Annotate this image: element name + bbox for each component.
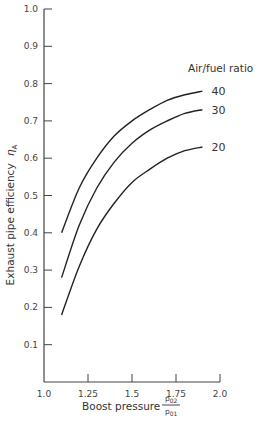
series-label-30: 30: [211, 104, 225, 117]
y-tick-label: 0.1: [24, 340, 38, 350]
series-curves: [62, 91, 203, 315]
y-ticks: 0.10.20.30.40.50.60.70.80.91.0: [24, 4, 52, 350]
legend-title: Air/fuel ratio: [188, 62, 253, 74]
y-tick-label: 0.8: [24, 79, 39, 89]
y-tick-label: 1.0: [24, 4, 39, 14]
y-axis-title: Exhaust pipe efficiency ηA: [4, 144, 19, 285]
x-tick-label: 1.25: [78, 389, 98, 399]
x-tick-label: 1.5: [125, 389, 139, 399]
curve-afr-20: [62, 147, 203, 315]
efficiency-chart: 0.10.20.30.40.50.60.70.80.91.0 1.01.251.…: [0, 0, 261, 423]
series-labels: 403020: [211, 85, 225, 154]
y-tick-label: 0.2: [24, 302, 38, 312]
x-axis-fraction: p02 p01: [162, 394, 180, 417]
svg-text:Exhaust pipe efficiency: Exhaust pipe efficiency ηA: [4, 144, 19, 285]
series-label-40: 40: [211, 85, 225, 98]
y-tick-label: 0.6: [24, 153, 39, 163]
svg-text:p01: p01: [165, 407, 178, 417]
x-tick-label: 2.0: [213, 389, 228, 399]
y-axis-symbol-sub: A: [11, 144, 19, 149]
y-tick-label: 0.3: [24, 265, 38, 275]
curve-afr-40: [62, 91, 203, 233]
y-tick-label: 0.7: [24, 116, 38, 126]
x-tick-label: 1.0: [37, 389, 52, 399]
y-axis-title-text: Exhaust pipe efficiency: [4, 163, 16, 285]
y-tick-label: 0.9: [24, 41, 39, 51]
curve-afr-30: [62, 110, 203, 278]
frac-numerator-sub: 02: [170, 397, 178, 404]
y-tick-label: 0.5: [24, 191, 38, 201]
frac-denominator-sub: 01: [170, 410, 178, 417]
y-tick-label: 0.4: [24, 228, 39, 238]
x-axis-title: Boost pressure: [82, 400, 160, 412]
series-label-20: 20: [211, 141, 225, 154]
x-ticks: 1.01.251.51.752.0: [37, 374, 228, 399]
